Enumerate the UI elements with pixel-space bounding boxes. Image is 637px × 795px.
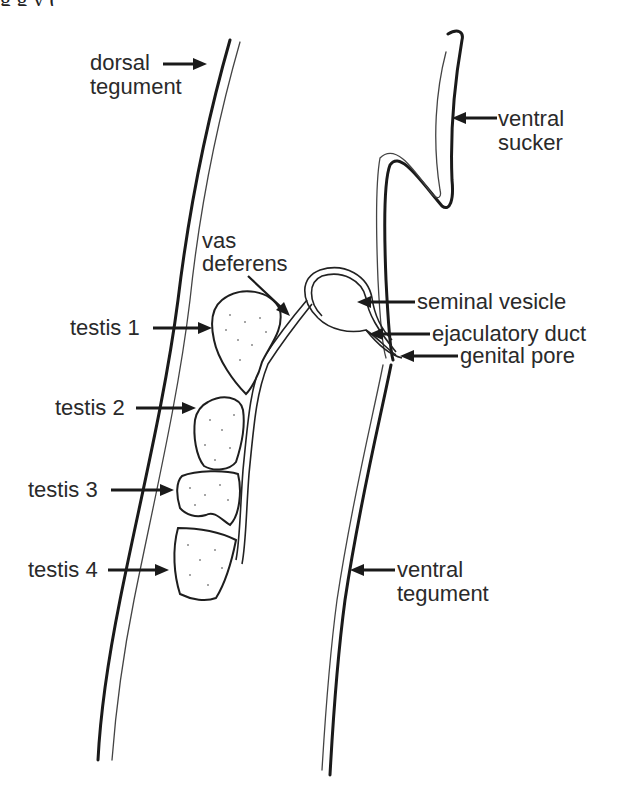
label-text: vas — [202, 228, 236, 253]
label-text: genital pore — [460, 343, 575, 368]
label-text: dorsal — [90, 50, 150, 75]
arrow-right-icon — [155, 564, 169, 576]
label-text: ventral — [397, 557, 463, 582]
anatomy-diagram: dorsal tegument ventral sucker vas defer… — [0, 0, 637, 795]
label-ventral-sucker: ventral sucker — [452, 106, 564, 155]
label-text: testis 4 — [28, 557, 98, 582]
arrow-right-icon — [182, 402, 196, 414]
label-testis-3: testis 3 — [28, 477, 174, 502]
testis-1-shape — [212, 291, 281, 394]
arrow-left-icon — [350, 564, 364, 576]
arrow-right-icon — [160, 484, 174, 496]
label-genital-pore: genital pore — [400, 343, 575, 368]
label-text: testis 3 — [28, 477, 98, 502]
testis-2-shape — [194, 397, 243, 469]
label-ventral-tegument: ventral tegument — [350, 557, 489, 606]
testis-3-shape — [177, 471, 240, 525]
label-dorsal-tegument: dorsal tegument — [90, 50, 207, 99]
label-text: sucker — [498, 130, 563, 155]
arrow-right-icon — [193, 58, 207, 70]
label-text: testis 1 — [70, 315, 140, 340]
label-testis-4: testis 4 — [28, 557, 169, 582]
label-text: ventral — [498, 106, 564, 131]
label-text: seminal vesicle — [417, 289, 566, 314]
label-testis-1: testis 1 — [70, 315, 212, 340]
label-text: tegument — [397, 581, 489, 606]
label-text: deferens — [202, 251, 288, 276]
label-text: testis 2 — [55, 395, 125, 420]
arrow-left-icon — [400, 350, 414, 362]
label-text: tegument — [90, 74, 182, 99]
testis-4-shape — [174, 528, 236, 600]
arrow-right-icon — [198, 322, 212, 334]
arrow-left-icon — [357, 296, 371, 308]
